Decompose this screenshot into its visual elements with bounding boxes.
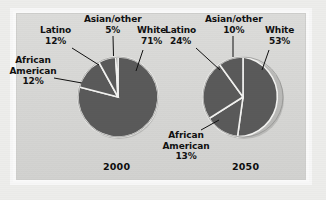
pie-2000-latino-name: Latino [40,25,71,35]
pie-2000-label-white: White 71% [137,25,166,46]
pie-2050-latino-name: Latino [165,25,196,35]
pie-2000-group [54,36,159,139]
pie-2050-african-american-value: 13% [175,151,196,161]
pie-2000-african-american-value: 12% [22,76,43,86]
pie-2000-white-value: 71% [141,36,162,46]
pie-2000-latino-value: 12% [45,36,66,46]
pie-2000-label-african-american: African American 12% [2,55,64,87]
pie-2000-asian-other-name: Asian/other [84,14,142,24]
pie-2050-label-asian-other: Asian/other 10% [205,14,263,35]
pie-2050-white-name: White [265,25,294,35]
pie-2050-white-value: 53% [269,36,290,46]
pie-2000-year-caption: 2000 [103,161,130,172]
pie-2000-label-latino: Latino 12% [40,25,71,46]
pie-2050-group [196,36,284,139]
pie-2050-asian-other-value: 10% [223,25,244,35]
pie-chart-figure: Asian/other 5% Latino 12% African Americ… [0,0,326,200]
pie-2000-leader-asian [113,36,114,56]
pie-2050-label-african-american: African American 13% [155,130,217,162]
pie-2000-white-name: White [137,25,166,35]
pie-2050-leader-latino [196,48,220,70]
pie-2000-leader-latino [72,48,99,65]
pie-2050-label-latino: Latino 24% [165,25,196,46]
pie-2000-african-american-name-line2: American [10,66,57,76]
pie-2050-asian-other-name: Asian/other [205,14,263,24]
pie-2000-asian-other-value: 5% [105,25,120,35]
pie-2000-label-asian-other: Asian/other 5% [84,14,142,35]
pie-2050-label-white: White 53% [265,25,294,46]
pie-2000-african-american-name-line1: African [15,55,51,65]
pie-2050-african-american-name-line1: African [168,130,204,140]
pie-2050-year-caption: 2050 [232,161,259,172]
pie-2050-african-american-name-line2: American [163,141,210,151]
pie-2050-latino-value: 24% [170,36,191,46]
